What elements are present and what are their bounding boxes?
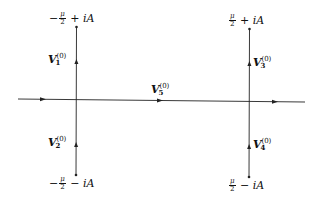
arrow-up-icon [247,144,251,149]
left-top-endpoint-label: −μ2 + iA [49,11,94,26]
left-bottom-endpoint-label: −μ2 − iA [49,176,94,191]
right-bottom-endpoint-label: μ2 − iA [228,178,264,193]
endpoint-dot [75,26,78,29]
contour-diagram [0,0,319,201]
label-v4: V4(0) [253,139,271,150]
endpoint-dot [248,28,251,31]
arrow-up-icon [74,142,78,147]
arrow-right-icon [157,99,163,103]
right-vertical-line [249,29,250,177]
arrow-right-icon [272,100,278,104]
fraction: μ2 [229,178,236,193]
arrow-up-icon [247,61,251,66]
fraction: μ2 [59,11,66,26]
arrow-up-icon [74,59,78,64]
arrow-right-icon [40,97,46,101]
fraction: μ2 [229,13,236,28]
right-top-endpoint-label: μ2 + iA [228,13,264,28]
label-v2: V2(0) [48,137,66,148]
fraction: μ2 [59,176,66,191]
left-vertical-line [76,27,77,175]
label-v3: V3(0) [253,57,271,68]
label-v5: V5(0) [151,84,169,95]
label-v1: V1(0) [48,54,66,65]
